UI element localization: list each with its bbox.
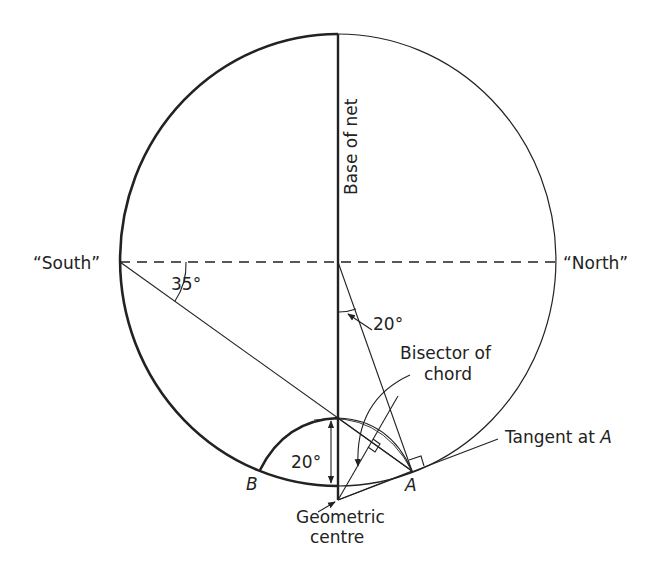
south-label: “South” — [33, 253, 100, 273]
tangent-right-angle — [409, 456, 424, 466]
angle-20-top-arc — [338, 309, 356, 312]
north-label: “North” — [563, 253, 628, 273]
angle-20-top-label: 20° — [373, 314, 403, 334]
centre-to-a-line — [338, 262, 412, 471]
tangent-label: Tangent at A — [504, 427, 612, 447]
angle-20-top-pointer — [348, 314, 372, 330]
primitive-circle-left — [120, 34, 338, 486]
geometric-centre-label-line1: Geometric — [296, 507, 385, 527]
angle-20-bottom-label: 20° — [291, 452, 321, 472]
chord-line — [338, 418, 412, 471]
point-a-label: A — [404, 475, 417, 495]
base-of-net-label: Base of net — [341, 98, 361, 195]
bisector-label-line2: chord — [424, 364, 472, 384]
primitive-circle-right — [338, 34, 556, 486]
angle-35-label: 35° — [171, 274, 201, 294]
bisector-label-line1: Bisector of — [400, 343, 492, 363]
stereonet-diagram: Base of net “South” “North” 35° 20° Bise… — [0, 0, 662, 575]
point-b-label: B — [246, 474, 258, 494]
geometric-centre-label-line2: centre — [310, 527, 364, 547]
